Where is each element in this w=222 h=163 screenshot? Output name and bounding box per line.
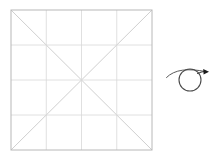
- gesture-loop-circle: [179, 69, 201, 91]
- gesture-arrowhead-icon: [203, 69, 209, 74]
- loop-arrow-gesture: [167, 69, 210, 91]
- square-grid-with-diagonals: [11, 10, 152, 150]
- drawing-surface: [0, 0, 222, 163]
- screenshot-canvas: [0, 0, 222, 163]
